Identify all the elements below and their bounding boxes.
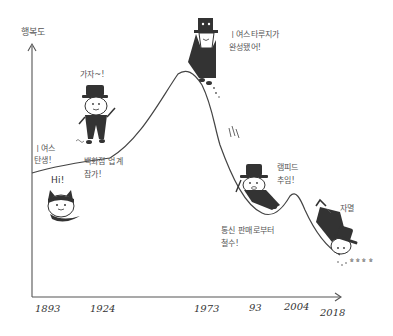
annotation-hi: Hi! <box>51 175 64 185</box>
cat-character-icon <box>48 190 80 222</box>
annotation-birth-line1: ㅣ여스 <box>34 144 56 154</box>
chart-stage: 행복도 ㅣ여스 탄생! Hi! 가자~! 백화점 업계 참가! ㅣ여스타루지가 … <box>0 0 393 336</box>
annotation-laugh: ㅎㅎㅎㅎ <box>349 255 374 265</box>
x-tick-1893: 1893 <box>35 303 60 314</box>
annotation-withdraw-line2: 철수! <box>221 239 239 249</box>
sliding-character-icon <box>236 164 280 210</box>
speed-marks-icon <box>229 126 239 138</box>
x-tick-2018: 2018 <box>320 307 345 318</box>
annotation-rampid-line2: 추임! <box>277 176 295 186</box>
y-axis-label: 행복도 <box>21 27 46 37</box>
annotation-dept-line1: 백화점 업계 <box>84 157 123 167</box>
x-tick-1973: 1973 <box>194 303 219 314</box>
x-tick-2004: 2004 <box>284 301 309 312</box>
peak-character-icon <box>188 18 220 98</box>
x-tick-1924: 1924 <box>90 303 115 314</box>
annotation-self-destruct: 자멸 <box>340 204 354 214</box>
annotation-peak-line1: ㅣ여스타루지가 <box>229 30 279 40</box>
annotation-dept-line2: 참가! <box>84 170 102 180</box>
annotation-rampid-line1: 램피드 <box>277 163 299 173</box>
annotation-peak-line2: 완성됐어! <box>229 43 261 53</box>
x-tick-93: 93 <box>249 302 262 313</box>
chart-plot-area <box>0 0 393 336</box>
y-axis <box>28 44 36 297</box>
annotation-birth-line2: 탄생! <box>34 156 52 166</box>
annotation-withdraw-line1: 통신 판매로부터 <box>221 226 274 236</box>
walking-man-character-icon <box>76 85 115 144</box>
x-axis <box>32 293 341 301</box>
annotation-gaja: 가자~! <box>80 70 105 80</box>
